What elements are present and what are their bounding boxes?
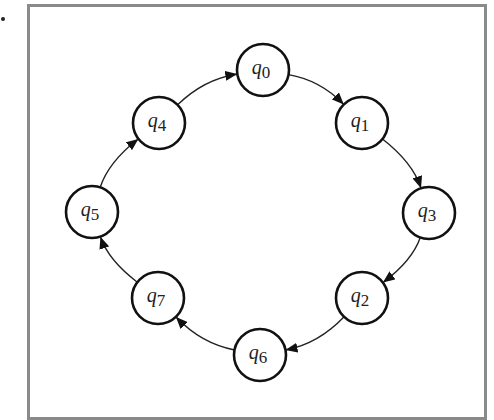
edge-q2-to-q6 [287,317,345,350]
state-node-q4: q4 [133,97,185,149]
edge-q5-to-q4 [100,140,137,188]
state-node-q5: q5 [66,186,118,238]
state-node-q2: q2 [336,272,388,324]
edge-q7-to-q5 [101,238,138,283]
edge-q1-to-q3 [383,139,421,187]
edge-q6-to-q7 [177,318,235,350]
nodes-group: q0q1q3q2q6q7q5q4 [66,44,455,381]
diagram-canvas: q0q1q3q2q6q7q5q4 [0,0,494,420]
edge-q0-to-q1 [289,75,344,104]
state-node-q7: q7 [132,272,184,324]
state-node-q6: q6 [234,329,286,381]
edge-q3-to-q2 [384,238,421,282]
state-machine-graph: q0q1q3q2q6q7q5q4 [0,0,494,420]
state-node-q3: q3 [403,187,455,239]
edge-q4-to-q0 [178,74,237,105]
state-node-q1: q1 [336,97,388,149]
state-node-q0: q0 [237,44,289,96]
